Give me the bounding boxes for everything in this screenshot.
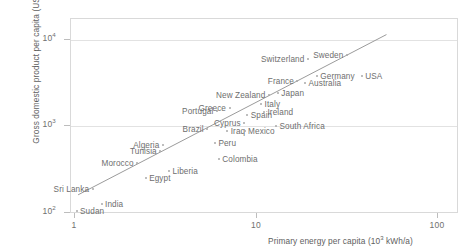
chart-screenshot: Gross domestic product per capita (US$/a… — [0, 0, 473, 250]
data-point-label: France — [268, 77, 294, 86]
x-tick-label: 10 — [236, 220, 276, 230]
data-point-label: Japan — [281, 89, 304, 98]
data-point-label: India — [105, 200, 123, 209]
data-point-label: New Zealand — [216, 90, 265, 99]
y-tick-label: 102 — [22, 207, 56, 216]
data-point-label: Sudan — [80, 207, 104, 216]
data-point-label: Cyprus — [214, 119, 241, 128]
data-point-marker[interactable] — [316, 75, 318, 77]
data-point-label: Morocco — [102, 159, 134, 168]
data-point-label: Brazil — [183, 124, 204, 133]
data-point-label: Ireland — [268, 107, 294, 116]
data-point-marker[interactable] — [218, 158, 220, 160]
data-point-label: Greece — [199, 103, 226, 112]
data-point-marker[interactable] — [214, 142, 216, 144]
data-point-label: Mexico — [248, 126, 275, 135]
data-point-marker[interactable] — [260, 103, 262, 105]
data-point-label: Colombia — [222, 154, 257, 163]
data-point-marker[interactable] — [277, 92, 279, 94]
data-point-label: Switzerland — [261, 55, 304, 64]
data-point-label: Algeria — [133, 140, 159, 149]
data-point-marker[interactable] — [145, 177, 147, 179]
data-point-label: USA — [365, 71, 382, 80]
plot-area: SudanIndiaSri LankaEgyptLiberiaMoroccoTu… — [70, 18, 458, 213]
y-tick-label: 104 — [22, 34, 56, 43]
data-point-label: Italy — [265, 99, 281, 108]
data-point-label: South Africa — [279, 121, 324, 130]
x-tick-label: 100 — [417, 220, 457, 230]
data-point-marker[interactable] — [346, 54, 348, 56]
data-point-label: Germany — [320, 71, 354, 80]
x-axis-title: Primary energy per capita (103 kWh/a) — [268, 236, 413, 246]
data-point-marker[interactable] — [162, 144, 164, 146]
data-point-label: Sweden — [313, 50, 343, 59]
data-point-label: Sri Lanka — [54, 185, 90, 194]
data-point-marker[interactable] — [275, 125, 277, 127]
data-point-marker[interactable] — [92, 188, 94, 190]
data-point-marker[interactable] — [263, 111, 265, 113]
data-point-marker[interactable] — [76, 210, 78, 212]
data-point-marker[interactable] — [244, 130, 246, 132]
x-tick-label: 1 — [54, 220, 94, 230]
data-point-label: Peru — [218, 138, 236, 147]
y-tick-label: 103 — [22, 120, 56, 129]
data-point-marker[interactable] — [304, 82, 306, 84]
data-point-marker[interactable] — [206, 128, 208, 130]
data-point-label: Liberia — [173, 167, 198, 176]
data-point-label: Egypt — [149, 173, 170, 182]
data-point-marker[interactable] — [361, 75, 363, 77]
data-point-marker[interactable] — [229, 107, 231, 109]
data-point-marker[interactable] — [268, 94, 270, 96]
